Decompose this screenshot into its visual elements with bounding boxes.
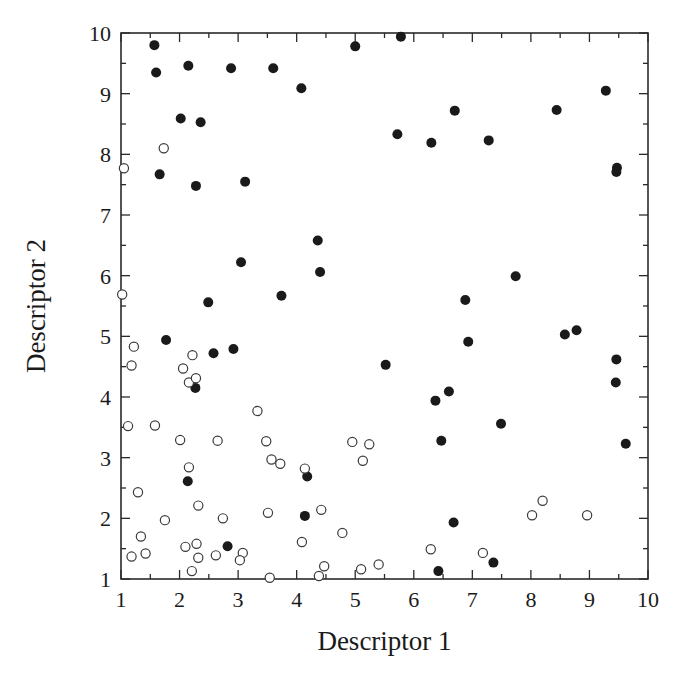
open-point	[358, 456, 367, 465]
y-tick-label: 10	[89, 21, 111, 46]
open-point	[538, 496, 547, 505]
filled-point	[484, 135, 494, 145]
open-point	[178, 364, 187, 373]
filled-point	[511, 271, 521, 281]
filled-point	[450, 106, 460, 116]
axis-tick-labels: 1234567891012345678910	[89, 21, 659, 612]
filled-point	[183, 61, 193, 71]
series-open	[118, 144, 592, 583]
filled-point	[463, 337, 473, 347]
open-point	[297, 537, 306, 546]
filled-point	[161, 335, 171, 345]
y-tick-label: 9	[100, 82, 111, 107]
filled-point	[572, 325, 582, 335]
open-point	[300, 464, 309, 473]
open-point	[191, 374, 200, 383]
open-point	[187, 567, 196, 576]
filled-point	[350, 41, 360, 51]
open-point	[527, 511, 536, 520]
plot-frame	[121, 33, 648, 579]
y-tick-label: 3	[100, 446, 111, 471]
filled-point	[392, 129, 402, 139]
open-point	[265, 573, 274, 582]
filled-point	[276, 291, 286, 301]
filled-point	[228, 344, 238, 354]
data-points	[118, 32, 631, 583]
open-point	[348, 437, 357, 446]
filled-point	[426, 138, 436, 148]
series-filled	[149, 32, 630, 576]
open-point	[211, 551, 220, 560]
open-point	[356, 565, 365, 574]
filled-point	[430, 396, 440, 406]
open-point	[150, 421, 159, 430]
y-tick-label: 2	[100, 506, 111, 531]
open-point	[253, 406, 262, 415]
filled-point	[621, 439, 631, 449]
open-point	[374, 560, 383, 569]
x-tick-label: 8	[525, 587, 536, 612]
x-tick-label: 9	[584, 587, 595, 612]
y-tick-label: 7	[100, 203, 111, 228]
filled-point	[226, 63, 236, 73]
y-tick-label: 5	[100, 324, 111, 349]
filled-point	[601, 86, 611, 96]
open-point	[127, 552, 136, 561]
open-point	[159, 144, 168, 153]
open-point	[141, 549, 150, 558]
filled-point	[611, 167, 621, 177]
filled-point	[268, 63, 278, 73]
open-point	[317, 505, 326, 514]
open-point	[320, 562, 329, 571]
filled-point	[488, 558, 498, 568]
filled-point	[151, 67, 161, 77]
open-point	[118, 290, 127, 299]
open-point	[218, 514, 227, 523]
filled-point	[155, 169, 165, 179]
filled-point	[315, 267, 325, 277]
y-axis-title: Descriptor 2	[21, 239, 51, 373]
open-point	[184, 463, 193, 472]
filled-point	[183, 476, 193, 486]
open-point	[263, 508, 272, 517]
open-point	[119, 164, 128, 173]
open-point	[194, 501, 203, 510]
open-point	[213, 436, 222, 445]
x-tick-label: 3	[233, 587, 244, 612]
x-tick-label: 10	[637, 587, 659, 612]
open-point	[127, 361, 136, 370]
y-tick-label: 4	[100, 385, 111, 410]
open-point	[129, 342, 138, 351]
filled-point	[296, 83, 306, 93]
filled-point	[611, 377, 621, 387]
filled-point	[381, 360, 391, 370]
open-point	[338, 528, 347, 537]
filled-point	[236, 257, 246, 267]
filled-point	[313, 235, 323, 245]
open-point	[478, 548, 487, 557]
filled-point	[496, 419, 506, 429]
filled-point	[203, 297, 213, 307]
filled-point	[460, 295, 470, 305]
open-point	[194, 553, 203, 562]
filled-point	[191, 181, 201, 191]
x-tick-label: 4	[291, 587, 302, 612]
filled-point	[196, 117, 206, 127]
open-point	[133, 488, 142, 497]
x-tick-label: 1	[116, 587, 127, 612]
open-point	[181, 542, 190, 551]
filled-point	[449, 518, 459, 528]
open-point	[314, 571, 323, 580]
x-tick-label: 6	[408, 587, 419, 612]
filled-point	[223, 541, 233, 551]
open-point	[262, 437, 271, 446]
open-point	[583, 511, 592, 520]
filled-point	[611, 354, 621, 364]
filled-point	[560, 330, 570, 340]
filled-point	[433, 566, 443, 576]
filled-point	[444, 387, 454, 397]
open-point	[192, 539, 201, 548]
filled-point	[240, 177, 250, 187]
x-tick-label: 2	[174, 587, 185, 612]
open-point	[267, 455, 276, 464]
